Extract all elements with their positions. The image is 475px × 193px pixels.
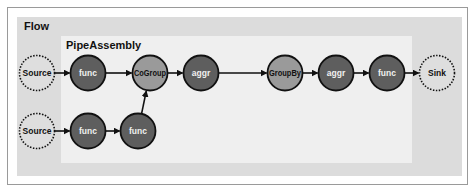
node-label: Source [23,68,52,78]
node-label: Source [23,126,52,136]
node-label: func [129,126,147,136]
edge-arrow-func3-to-cogroup [142,91,147,114]
node-aggr1[interactable]: aggr [184,56,219,91]
node-func3[interactable]: func [121,114,156,149]
node-groupby[interactable]: GroupBy [268,56,303,91]
nodes-layer: SourcefuncCoGroupaggrGroupByaggrfuncSink… [20,56,455,149]
node-label: CoGroup [134,68,166,78]
node-label: aggr [327,68,346,78]
node-source2[interactable]: Source [20,114,55,149]
node-sink[interactable]: Sink [420,56,455,91]
node-aggr2[interactable]: aggr [319,56,354,91]
node-source1[interactable]: Source [20,56,55,91]
node-label: func [378,68,396,78]
node-cogroup[interactable]: CoGroup [133,56,168,91]
node-label: func [79,126,97,136]
edges-layer [55,73,419,131]
node-label: Sink [428,68,446,78]
node-label: aggr [192,68,211,78]
node-label: func [79,68,97,78]
node-func2[interactable]: func [71,114,106,149]
node-func4[interactable]: func [370,56,405,91]
node-label: GroupBy [269,68,301,78]
flow-graph: SourcefuncCoGroupaggrGroupByaggrfuncSink… [0,0,475,193]
node-func1[interactable]: func [71,56,106,91]
